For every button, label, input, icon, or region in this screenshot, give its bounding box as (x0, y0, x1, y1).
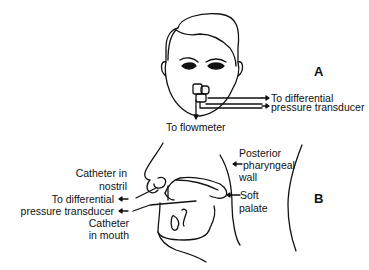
label-to-differential-a-line2: pressure transducer (271, 101, 364, 113)
label-catheter-mouth-line2: in mouth (89, 229, 129, 241)
label-soft-palate-line1: Soft (240, 189, 259, 201)
label-to-flowmeter: To flowmeter (166, 121, 226, 133)
label-soft-palate-line2: palate (239, 202, 268, 214)
panel-label-a: A (314, 64, 323, 79)
label-to-differential-b-line2: pressure transducer (21, 205, 114, 217)
label-catheter-mouth-line1: Catheter (89, 217, 129, 229)
label-to-differential-b-line1: To differential (52, 193, 114, 205)
face-illustration (162, 14, 270, 119)
label-posterior-line1: Posterior (239, 147, 281, 159)
label-catheter-nostril-line1: Catheter in (76, 167, 127, 179)
label-posterior-line2: pharyngeal (243, 159, 295, 171)
diagram-drawing (0, 0, 369, 270)
label-posterior-line3: wall (239, 171, 257, 183)
panel-label-b: B (314, 191, 323, 206)
label-catheter-nostril-line2: nostril (99, 180, 127, 192)
